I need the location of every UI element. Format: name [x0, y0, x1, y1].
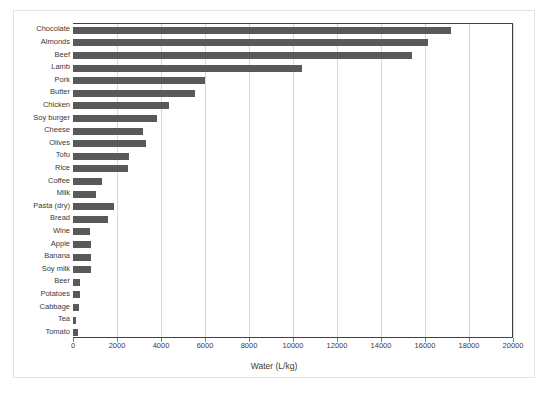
x-tick-label: 2000 [109, 342, 126, 350]
bar-row [73, 62, 512, 75]
x-tick-label: 16000 [415, 342, 436, 350]
category-label: Cheese [44, 126, 70, 134]
gridline [513, 24, 514, 337]
bar [73, 153, 129, 160]
bar-row [73, 226, 512, 239]
bar [73, 228, 90, 235]
category-label: Coffee [48, 177, 70, 185]
bar-row [73, 125, 512, 138]
bar-row [73, 163, 512, 176]
bar [73, 90, 195, 97]
category-label: Apple [51, 240, 70, 248]
category-label: Pasta (dry) [33, 202, 70, 210]
bar [73, 52, 412, 59]
x-tick-label: 8000 [241, 342, 258, 350]
x-tick-label: 0 [71, 342, 75, 350]
bar [73, 128, 143, 135]
x-tick-label: 4000 [153, 342, 170, 350]
category-label: Chicken [43, 101, 70, 109]
chart-frame: ChocolateAlmondsBeefLambPorkButterChicke… [13, 10, 535, 378]
bar-row [73, 263, 512, 276]
bar [73, 140, 146, 147]
category-label: Chocolate [36, 25, 70, 33]
category-label: Almonds [41, 38, 70, 46]
bar [73, 39, 428, 46]
category-label: Beer [54, 277, 70, 285]
bar [73, 241, 91, 248]
bar-row [73, 213, 512, 226]
bar [73, 317, 76, 324]
y-axis-category-labels: ChocolateAlmondsBeefLambPorkButterChicke… [14, 23, 70, 338]
bar-row [73, 276, 512, 289]
category-label: Soy milk [42, 265, 70, 273]
category-label: Wine [53, 227, 70, 235]
bar [73, 115, 157, 122]
category-label: Cabbage [40, 303, 70, 311]
category-label: Banana [44, 252, 70, 260]
bar [73, 203, 114, 210]
category-label: Potatoes [40, 290, 70, 298]
bar-row [73, 301, 512, 314]
category-label: Bread [50, 214, 70, 222]
x-tick-label: 14000 [371, 342, 392, 350]
bar [73, 102, 169, 109]
bar-row [73, 137, 512, 150]
bar-row [73, 24, 512, 37]
category-label: Tofu [56, 151, 70, 159]
bar-row [73, 37, 512, 50]
bar-row [73, 251, 512, 264]
bar-row [73, 100, 512, 113]
x-tick-label: 10000 [283, 342, 304, 350]
category-label: Milk [57, 189, 70, 197]
x-axis-title: Water (L/kg) [14, 361, 534, 371]
x-axis-tick-labels: 0200040006000800010000120001400016000180… [73, 342, 513, 358]
x-tick-label: 20000 [503, 342, 524, 350]
category-label: Tea [58, 315, 70, 323]
bar [73, 165, 128, 172]
category-label: Tomato [45, 328, 70, 336]
bar-row [73, 49, 512, 62]
bar-row [73, 74, 512, 87]
bar [73, 65, 302, 72]
bar [73, 291, 80, 298]
bar [73, 77, 205, 84]
plot-area [73, 23, 513, 338]
bar-row [73, 175, 512, 188]
bar [73, 329, 78, 336]
bar [73, 216, 108, 223]
bar-row [73, 289, 512, 302]
category-label: Soy burger [33, 114, 70, 122]
category-label: Butter [50, 88, 70, 96]
bar-row [73, 200, 512, 213]
category-label: Rice [55, 164, 70, 172]
category-label: Lamb [51, 63, 70, 71]
category-label: Olives [49, 139, 70, 147]
x-tick-label: 18000 [459, 342, 480, 350]
bar [73, 304, 79, 311]
bar-row [73, 150, 512, 163]
bar [73, 254, 91, 261]
bar-row [73, 314, 512, 327]
bar [73, 191, 96, 198]
bar [73, 178, 102, 185]
bar [73, 266, 91, 273]
category-label: Beef [55, 51, 70, 59]
bar [73, 27, 451, 34]
bar [73, 279, 80, 286]
x-tick-label: 12000 [327, 342, 348, 350]
bar-row [73, 87, 512, 100]
x-tick-label: 6000 [197, 342, 214, 350]
bar-row [73, 112, 512, 125]
bar-row [73, 188, 512, 201]
bar-series [73, 24, 512, 337]
category-label: Pork [55, 76, 70, 84]
bar-row [73, 238, 512, 251]
